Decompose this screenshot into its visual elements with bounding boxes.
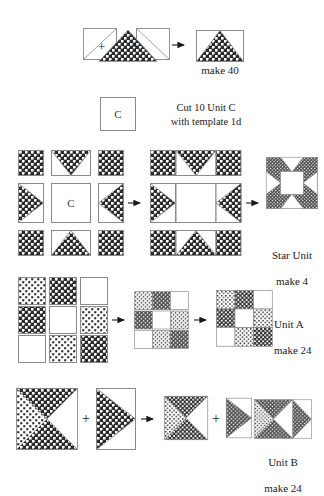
- unit-b-triangle-piece-2: [226, 396, 252, 440]
- star-piece-geese-top: [51, 150, 91, 176]
- unit-b-triangle-piece: [96, 388, 136, 450]
- unit-b-operator-2: +: [212, 412, 220, 426]
- flying-geese-caption: make 40: [180, 64, 260, 77]
- unit-c-instruction: Cut 10 Unit C with template 1d: [146, 101, 266, 129]
- unit-c-instruction-line-2: with template 1d: [146, 115, 266, 129]
- flying-geese-center-triangle: [99, 30, 157, 62]
- star-piece-corner-br: [98, 230, 124, 256]
- unit-c-instruction-line-1: Cut 10 Unit C: [146, 101, 266, 115]
- unit-a-caption: Unit A make 24: [274, 305, 324, 370]
- unit-b-hourglass-piece: [16, 388, 78, 450]
- star-piece-geese-bottom: [51, 230, 91, 256]
- flying-geese-operator-2: +: [132, 40, 139, 53]
- star-unit-caption-line-1: Star Unit: [252, 249, 324, 262]
- unit-b-partial-assembly: [164, 396, 208, 440]
- star-row-bottom: [150, 230, 242, 256]
- flying-geese-result: [196, 30, 244, 62]
- unit-b-caption-line-2: make 24: [243, 482, 323, 495]
- unit-a-caption-line-1: Unit A: [274, 318, 324, 331]
- star-row-top: [150, 150, 242, 176]
- star-piece-corner-bl: [18, 230, 44, 256]
- star-piece-geese-right: [98, 183, 124, 223]
- unit-c-square-label: C: [114, 108, 121, 120]
- unit-c-square: C: [100, 97, 136, 131]
- star-piece-center-c: C: [51, 183, 91, 223]
- star-piece-geese-left: [18, 183, 44, 223]
- unit-a-caption-line-2: make 24: [274, 344, 324, 357]
- unit-a-assembled-rows: [134, 277, 190, 363]
- unit-b-arrow-1: [141, 414, 159, 424]
- unit-a-loose-pieces: [18, 277, 108, 363]
- star-unit-arrow-2: [246, 198, 264, 208]
- star-row-middle: [150, 183, 242, 223]
- star-unit-caption-line-2: make 4: [252, 275, 324, 288]
- unit-a-arrow-2: [194, 315, 212, 325]
- star-center-label: C: [67, 197, 74, 209]
- unit-b-operator-1: +: [82, 412, 90, 426]
- star-unit-arrow-1: [128, 198, 146, 208]
- flying-geese-arrow: [172, 40, 190, 50]
- unit-a-result: [216, 290, 274, 348]
- unit-a-arrow-1: [112, 315, 130, 325]
- star-piece-corner-tl: [18, 150, 44, 176]
- unit-b-caption: Unit B make 24: [243, 443, 323, 496]
- unit-b-result: [254, 399, 312, 439]
- star-piece-corner-tr: [98, 150, 124, 176]
- star-unit-result: [266, 157, 318, 209]
- unit-b-caption-line-1: Unit B: [243, 456, 323, 469]
- flying-geese-operator-1: +: [98, 40, 105, 53]
